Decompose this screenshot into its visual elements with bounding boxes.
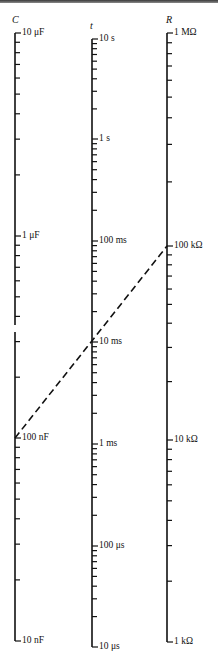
example-dashed-line <box>15 246 167 438</box>
r-label-10kohm: 10 kΩ <box>174 434 198 444</box>
axis-c <box>15 33 21 641</box>
c-label-10nF: 10 nF <box>22 635 44 645</box>
nomogram-canvas <box>0 0 218 658</box>
axis-t <box>92 39 98 647</box>
t-label-100ms: 100 ms <box>99 235 127 245</box>
r-label-100kohm: 100 kΩ <box>174 240 202 250</box>
axis-title-t: t <box>90 20 93 31</box>
axis-title-r: R <box>166 14 172 25</box>
example-line-layer <box>15 246 167 438</box>
axis-title-c: C <box>12 14 19 25</box>
r-label-1Mohm: 1 MΩ <box>174 27 197 37</box>
c-label-10uF: 10 μF <box>22 27 44 37</box>
t-label-10us: 10 μs <box>99 641 120 651</box>
t-label-1ms: 1 ms <box>99 438 117 448</box>
t-label-100us: 100 μs <box>99 540 124 550</box>
t-label-10s: 10 s <box>99 33 115 43</box>
c-label-100nF: 100 nF <box>22 432 49 442</box>
t-label-1s: 1 s <box>99 133 110 143</box>
axis-r <box>167 33 173 642</box>
r-label-1kohm: 1 kΩ <box>174 636 193 646</box>
c-label-1uF: 1 μF <box>22 230 40 240</box>
t-label-10ms: 10 ms <box>99 336 122 346</box>
